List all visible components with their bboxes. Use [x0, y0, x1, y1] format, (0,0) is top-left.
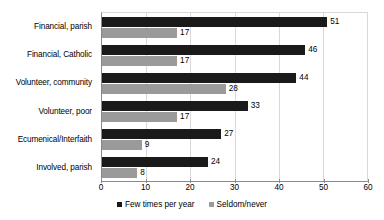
bar-few-times-per-year: 33: [102, 101, 248, 111]
x-tick-label: 0: [99, 183, 104, 192]
category-axis-labels: Financial, parishFinancial, CatholicVolu…: [0, 12, 97, 182]
bar-wrapper: 44: [102, 73, 367, 83]
bar-group: 248: [102, 153, 367, 181]
bar-value-label: 24: [211, 157, 220, 165]
bar-few-times-per-year: 24: [102, 157, 208, 167]
bar-few-times-per-year: 46: [102, 45, 305, 55]
bar-wrapper: 9: [102, 140, 367, 150]
bar-few-times-per-year: 51: [102, 17, 327, 27]
legend-label: Seldom/never: [217, 200, 268, 209]
plot-area: 5117461744283317279248: [101, 12, 368, 182]
bar-seldom-never: 28: [102, 84, 226, 94]
bar-wrapper: 8: [102, 168, 367, 178]
x-tick-label: 50: [319, 183, 328, 192]
bar-wrapper: 24: [102, 157, 367, 167]
category-label: Financial, Catholic: [0, 40, 97, 68]
bar-wrapper: 17: [102, 56, 367, 66]
legend-item[interactable]: Few times per year: [117, 200, 195, 209]
bar-chart: Financial, parishFinancial, CatholicVolu…: [0, 0, 384, 220]
legend-swatch-icon: [209, 202, 214, 207]
bar-few-times-per-year: 27: [102, 129, 221, 139]
bar-seldom-never: 17: [102, 112, 177, 122]
bar-seldom-never: 8: [102, 168, 137, 178]
x-axis: 0102030405060: [101, 183, 368, 197]
bar-wrapper: 46: [102, 45, 367, 55]
category-label: Ecumenical/Interfaith: [0, 125, 97, 153]
bar-wrapper: 33: [102, 101, 367, 111]
bar-value-label: 46: [308, 45, 317, 53]
legend-label: Few times per year: [125, 200, 195, 209]
legend-swatch-icon: [117, 202, 122, 207]
bar-group: 5117: [102, 13, 367, 41]
bar-seldom-never: 9: [102, 140, 142, 150]
bar-group: 4617: [102, 41, 367, 69]
bar-value-label: 9: [145, 140, 150, 148]
bar-value-label: 33: [251, 101, 260, 109]
bar-seldom-never: 17: [102, 28, 177, 38]
x-tick-label: 10: [141, 183, 150, 192]
bar-wrapper: 17: [102, 28, 367, 38]
bar-value-label: 8: [140, 168, 145, 176]
bar-seldom-never: 17: [102, 56, 177, 66]
bar-wrapper: 28: [102, 84, 367, 94]
category-label: Involved, parish: [0, 154, 97, 182]
category-label: Volunteer, community: [0, 69, 97, 97]
bar-value-label: 27: [224, 129, 233, 137]
bar-wrapper: 27: [102, 129, 367, 139]
bar-group: 3317: [102, 97, 367, 125]
bar-value-label: 17: [180, 28, 189, 36]
category-label: Financial, parish: [0, 12, 97, 40]
legend-item[interactable]: Seldom/never: [209, 200, 268, 209]
x-tick-label: 60: [363, 183, 372, 192]
bar-value-label: 51: [330, 17, 339, 25]
x-tick-label: 40: [274, 183, 283, 192]
category-label: Volunteer, poor: [0, 97, 97, 125]
gridline: [367, 13, 368, 181]
legend: Few times per yearSeldom/never: [0, 200, 384, 209]
bar-few-times-per-year: 44: [102, 73, 296, 83]
bar-value-label: 28: [229, 84, 238, 92]
bar-group: 279: [102, 125, 367, 153]
x-tick-label: 30: [230, 183, 239, 192]
bar-value-label: 17: [180, 56, 189, 64]
bar-group: 4428: [102, 69, 367, 97]
bar-rows: 5117461744283317279248: [102, 13, 367, 181]
bar-value-label: 17: [180, 112, 189, 120]
bar-value-label: 44: [299, 73, 308, 81]
x-tick-label: 20: [185, 183, 194, 192]
bar-wrapper: 17: [102, 112, 367, 122]
bar-wrapper: 51: [102, 17, 367, 27]
